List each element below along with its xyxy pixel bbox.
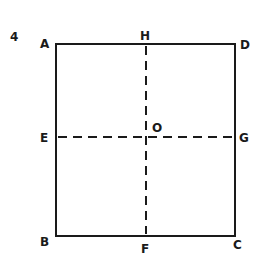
- label-o: O: [152, 121, 162, 135]
- label-a: A: [40, 37, 50, 51]
- diagram-canvas: 4 A H D E O G B F C: [0, 0, 263, 264]
- label-f: F: [141, 242, 149, 256]
- label-d: D: [240, 38, 250, 52]
- label-b: B: [40, 235, 49, 249]
- figure-number: 4: [10, 30, 18, 44]
- label-e: E: [40, 131, 48, 145]
- label-g: G: [239, 131, 249, 145]
- label-c: C: [233, 238, 242, 252]
- label-h: H: [140, 29, 150, 43]
